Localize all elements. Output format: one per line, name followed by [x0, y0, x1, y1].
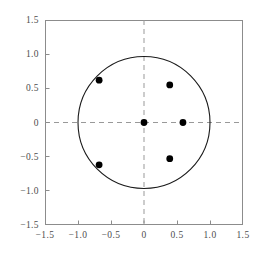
xtick-label-2: −1.0 — [69, 230, 88, 240]
ytick-label-3: 0.5 — [8, 83, 39, 93]
data-point — [166, 155, 173, 162]
data-point — [96, 77, 103, 84]
xtick-label-3: −0.5 — [102, 230, 121, 240]
scatter-plot — [0, 0, 267, 256]
xtick-label-6: 1.0 — [203, 230, 216, 240]
xtick-label-4: 0 — [141, 230, 146, 240]
ytick-label-1: 1.5 — [8, 15, 39, 25]
data-point — [141, 119, 148, 126]
data-point — [166, 82, 173, 89]
ytick-label-4: 0 — [8, 118, 39, 128]
ytick-label-6: −1.0 — [8, 186, 39, 196]
data-point — [96, 161, 103, 168]
data-point — [180, 119, 187, 126]
chart-figure: 1.5 1.0 0.5 0 −0.5 −1.0 −1.5 −1.5 −1.0 −… — [0, 0, 267, 256]
xtick-label-7: 1.5 — [236, 230, 249, 240]
xtick-label-5: 0.5 — [170, 230, 183, 240]
ytick-label-5: −0.5 — [8, 152, 39, 162]
ytick-label-7: −1.5 — [8, 220, 39, 230]
ytick-label-2: 1.0 — [8, 49, 39, 59]
xtick-label-1: −1.5 — [36, 230, 55, 240]
